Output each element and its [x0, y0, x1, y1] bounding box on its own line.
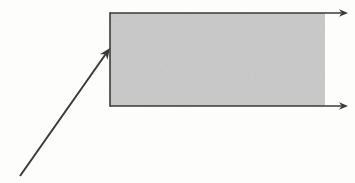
shaded-band-grain — [110, 13, 325, 106]
diagram-figure — [0, 0, 355, 183]
diagram-canvas — [0, 0, 355, 183]
